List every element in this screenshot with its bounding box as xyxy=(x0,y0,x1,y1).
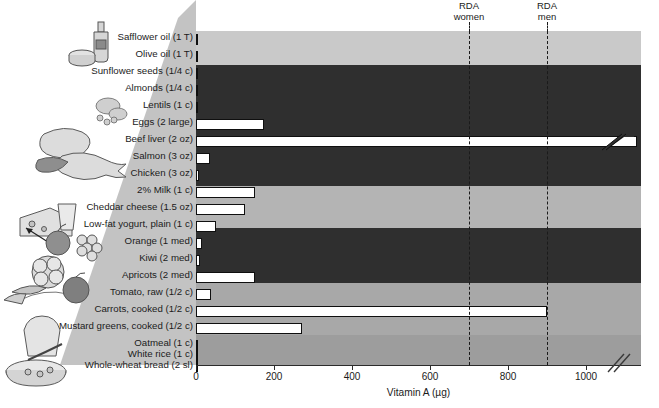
bar-cheddar-cheese xyxy=(196,204,245,215)
row-label-eggs: Eggs (2 large) xyxy=(132,116,193,128)
rda-men-line1: RDA xyxy=(512,0,582,11)
rda-men-line xyxy=(547,31,548,365)
bar-salmon xyxy=(196,153,210,164)
bar-chicken xyxy=(196,170,199,181)
row-label-almonds: Almonds (1/4 c) xyxy=(125,82,193,94)
band-oils xyxy=(196,31,641,65)
bar-orange xyxy=(196,238,202,249)
rda-women-line xyxy=(469,31,470,365)
row-label-chicken: Chicken (3 oz) xyxy=(131,167,193,179)
x-tick-400 xyxy=(352,365,353,370)
beef-liver-bar-break-icon xyxy=(600,132,634,152)
bar-safflower-oil xyxy=(196,34,198,45)
rda-men-label: RDA men xyxy=(512,0,582,22)
plot-area xyxy=(196,31,641,365)
x-ticklabel-0: 0 xyxy=(171,371,221,382)
vitamin-a-food-sources-chart: RDA women RDA men xyxy=(0,0,659,408)
row-label-salmon: Salmon (3 oz) xyxy=(133,150,193,162)
lentils-illustration xyxy=(96,98,127,125)
row-label-kiwi: Kiwi (2 med) xyxy=(139,252,193,264)
row-label-tomato-raw: Tomato, raw (1/2 c) xyxy=(110,286,193,298)
bar-mustard-greens xyxy=(196,323,302,334)
bar-milk-2percent xyxy=(196,187,255,198)
bar-lowfat-yogurt xyxy=(196,221,216,232)
rda-men-stem xyxy=(547,22,548,32)
bar-oatmeal xyxy=(196,340,198,351)
band-fruits xyxy=(196,228,641,283)
x-ticklabel-200: 200 xyxy=(249,371,299,382)
band-grains xyxy=(196,335,641,365)
axis-break-icon xyxy=(604,352,634,374)
bar-sunflower-seeds xyxy=(196,68,198,79)
x-ticklabel-400: 400 xyxy=(327,371,377,382)
x-ticklabel-800: 800 xyxy=(483,371,533,382)
bar-eggs xyxy=(196,119,264,130)
bar-apricots xyxy=(196,272,255,283)
dairy-illustration xyxy=(20,204,76,236)
rda-women-stem xyxy=(469,22,470,32)
row-label-beef-liver: Beef liver (2 oz) xyxy=(125,133,193,145)
bar-kiwi xyxy=(196,255,200,266)
row-label-apricots: Apricots (2 med) xyxy=(122,269,193,281)
oil-bottle-illustration xyxy=(69,22,108,66)
poultry-fish-illustration xyxy=(36,128,126,179)
grains-illustration xyxy=(6,316,66,386)
row-label-mustard-greens: Mustard greens, cooked (1/2 c) xyxy=(59,320,193,332)
row-label-safflower-oil: Safflower oil (1 T) xyxy=(117,31,193,43)
bar-olive-oil xyxy=(196,51,198,62)
x-axis-title: Vitamin A (µg) xyxy=(196,387,641,398)
row-label-milk-2percent: 2% Milk (1 c) xyxy=(137,184,193,196)
rda-women-line2: women xyxy=(434,11,504,22)
rda-women-label: RDA women xyxy=(434,0,504,22)
band-dairy xyxy=(196,186,641,228)
row-label-carrots-cooked: Carrots, cooked (1/2 c) xyxy=(94,303,193,315)
row-label-sunflower-seeds: Sunflower seeds (1/4 c) xyxy=(91,65,193,77)
bar-beef-liver xyxy=(196,136,637,147)
x-tick-1000 xyxy=(586,365,587,370)
bar-lentils xyxy=(196,102,198,113)
x-tick-600 xyxy=(430,365,431,370)
x-ticklabel-600: 600 xyxy=(405,371,455,382)
rda-men-line2: men xyxy=(512,11,582,22)
bar-almonds xyxy=(196,85,198,96)
x-tick-800 xyxy=(508,365,509,370)
x-axis-line xyxy=(196,365,641,366)
rda-women-line1: RDA xyxy=(434,0,504,11)
row-label-cheddar-cheese: Cheddar cheese (1.5 oz) xyxy=(86,201,193,213)
row-label-lentils: Lentils (1 c) xyxy=(143,99,193,111)
bar-carrots-cooked xyxy=(196,306,547,317)
vegetable-illustration xyxy=(4,256,89,304)
x-tick-0 xyxy=(196,365,197,370)
bar-tomato-raw xyxy=(196,289,211,300)
row-label-whole-wheat-bread: Whole-wheat bread (2 sl) xyxy=(85,359,193,371)
row-label-olive-oil: Olive oil (1 T) xyxy=(136,48,193,60)
x-tick-200 xyxy=(274,365,275,370)
row-label-orange: Orange (1 med) xyxy=(125,235,193,247)
row-label-lowfat-yogurt: Low-fat yogurt, plain (1 c) xyxy=(84,218,193,230)
